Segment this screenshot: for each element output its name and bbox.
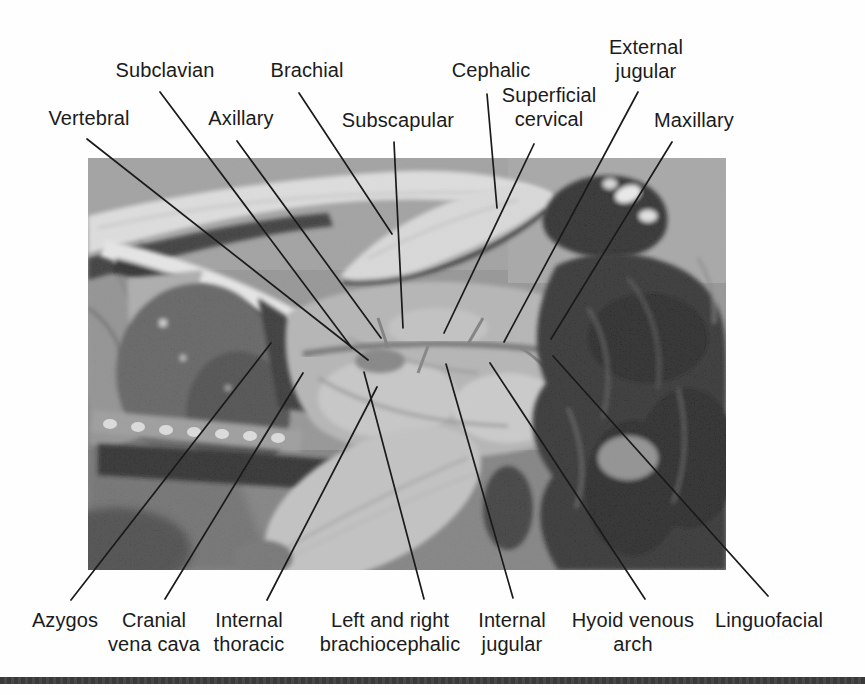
- label-azygos: Azygos: [32, 608, 98, 632]
- label-cephalic: Cephalic: [452, 58, 531, 82]
- bottom-page-rule: [0, 677, 865, 684]
- label-hyoid-venous-arch: Hyoid venous arch: [572, 608, 694, 656]
- label-maxillary: Maxillary: [654, 108, 734, 132]
- label-cranial-vena-cava: Cranial vena cava: [108, 608, 200, 656]
- label-external-jugular: External jugular: [609, 35, 683, 83]
- label-vertebral: Vertebral: [49, 106, 130, 130]
- label-superficial-cervical: Superficial cervical: [502, 83, 596, 131]
- label-internal-jugular: Internal jugular: [478, 608, 546, 656]
- label-brachiocephalic: Left and right brachiocephalic: [320, 608, 460, 656]
- label-subclavian: Subclavian: [116, 58, 215, 82]
- label-axillary: Axillary: [208, 106, 273, 130]
- dissection-photo: [88, 158, 726, 570]
- figure-canvas: Vertebral Subclavian Axillary Brachial S…: [0, 0, 865, 695]
- label-subscapular: Subscapular: [342, 108, 454, 132]
- label-brachial: Brachial: [270, 58, 343, 82]
- label-internal-thoracic: Internal thoracic: [214, 608, 285, 656]
- dissection-photo-art: [88, 158, 726, 570]
- label-linguofacial: Linguofacial: [715, 608, 823, 632]
- photo-grain: [88, 158, 726, 570]
